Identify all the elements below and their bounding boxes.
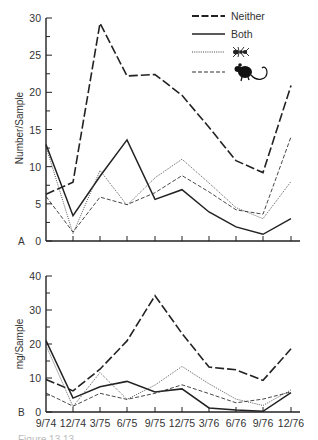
panel-a-chart: 051015202530 bbox=[29, 12, 300, 247]
y-tick-label: 25 bbox=[29, 49, 41, 61]
x-tick-label: 6/75 bbox=[117, 417, 138, 429]
ant-icon bbox=[233, 47, 249, 57]
y-tick-label: 10 bbox=[29, 161, 41, 173]
panel-a-letter: A bbox=[18, 236, 25, 247]
figure-caption: Figure 13.13 ... bbox=[18, 433, 85, 440]
series-line-dotted bbox=[46, 147, 291, 234]
x-tick-label: 9/75 bbox=[145, 417, 166, 429]
x-tick-label: 12/76 bbox=[278, 417, 304, 429]
figure: 051015202530 0102030409/7412/743/756/759… bbox=[0, 0, 318, 440]
series-line-long-dash bbox=[46, 296, 291, 391]
legend-label: Both bbox=[231, 28, 253, 40]
y-tick-label: 20 bbox=[29, 86, 41, 98]
series-line-dotted bbox=[46, 345, 291, 406]
x-tick-label: 3/76 bbox=[199, 417, 220, 429]
y-tick-label: 40 bbox=[29, 270, 41, 282]
legend-label: Neither bbox=[231, 10, 265, 22]
panel-b-letter: B bbox=[18, 407, 25, 418]
y-tick-label: 30 bbox=[29, 12, 41, 24]
y-tick-label: 15 bbox=[29, 124, 41, 136]
y-tick-label: 10 bbox=[29, 372, 41, 384]
series-line-long-dash bbox=[46, 23, 291, 194]
panel-b-y-axis-label: mg/Sample bbox=[14, 318, 25, 369]
panel-a-y-axis-label: Number/Sample bbox=[14, 91, 25, 164]
x-tick-label: 6/76 bbox=[226, 417, 247, 429]
x-tick-label: 3/75 bbox=[90, 417, 111, 429]
y-tick-label: 0 bbox=[35, 235, 41, 247]
rodent-icon bbox=[235, 63, 268, 81]
y-tick-label: 30 bbox=[29, 304, 41, 316]
y-tick-label: 20 bbox=[29, 338, 41, 350]
x-tick-label: 12/75 bbox=[169, 417, 195, 429]
y-tick-label: 5 bbox=[35, 198, 41, 210]
series-line-short-dash bbox=[46, 137, 291, 232]
legend: NeitherBoth bbox=[192, 10, 267, 81]
x-tick-label: 9/76 bbox=[253, 417, 274, 429]
x-tick-label: 12/74 bbox=[60, 417, 86, 429]
panel-b-chart: 0102030409/7412/743/756/759/7512/753/766… bbox=[29, 270, 304, 429]
x-tick-label: 9/74 bbox=[36, 417, 57, 429]
series-line-short-dash bbox=[46, 385, 291, 406]
